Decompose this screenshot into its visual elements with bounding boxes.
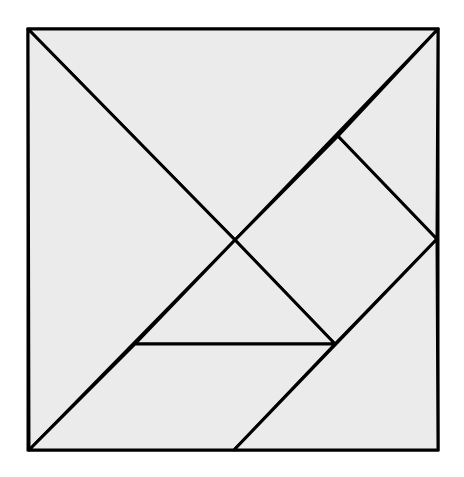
tangram-diagram <box>0 0 464 477</box>
tangram-pieces <box>28 29 438 450</box>
